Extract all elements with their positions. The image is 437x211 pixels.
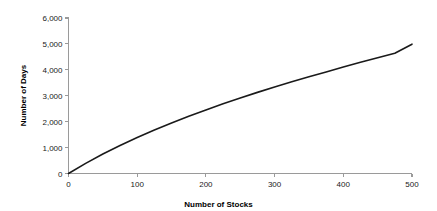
x-tick-label: 0: [66, 180, 70, 189]
data-series-group: [69, 44, 413, 173]
y-tick-label: 5,000: [0, 39, 63, 48]
axes-group: [69, 18, 413, 174]
y-tick-label: 3,000: [0, 91, 63, 100]
x-axis-title: Number of Stocks: [0, 200, 437, 209]
tick-marks-group: [65, 18, 412, 177]
x-tick-label: 300: [268, 180, 281, 189]
x-tick-label: 200: [199, 180, 212, 189]
y-tick-label: 0: [0, 169, 63, 178]
y-tick-label: 4,000: [0, 65, 63, 74]
x-tick-label: 500: [405, 180, 418, 189]
data-line: [69, 44, 413, 173]
x-tick-label: 400: [337, 180, 350, 189]
chart-container: 01,0002,0003,0004,0005,0006,000 01002003…: [0, 0, 437, 211]
y-tick-label: 6,000: [0, 14, 63, 23]
y-axis-title: Number of Days: [19, 18, 31, 173]
x-tick-label: 100: [131, 180, 144, 189]
y-tick-label: 1,000: [0, 143, 63, 152]
y-tick-label: 2,000: [0, 117, 63, 126]
